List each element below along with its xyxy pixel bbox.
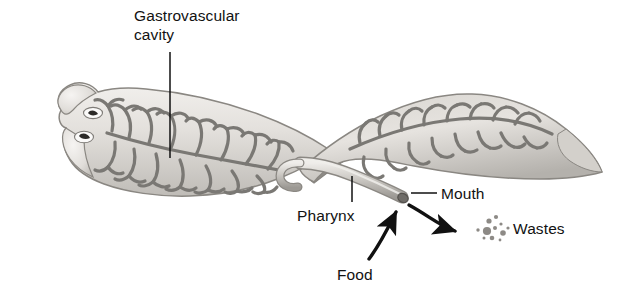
eyespot-upper [84, 107, 103, 118]
label-gastrovascular-cavity-line2: cavity [134, 26, 174, 43]
waste-particles [476, 215, 509, 242]
arrow-food [369, 212, 396, 259]
anterior-body [58, 83, 330, 196]
label-mouth: Mouth [441, 184, 485, 203]
planarian-diagram [0, 0, 633, 299]
arrow-wastes [409, 205, 455, 231]
label-wastes: Wastes [513, 219, 565, 238]
label-pharynx: Pharynx [297, 206, 355, 225]
label-gastrovascular-cavity-line1: Gastrovascular [134, 7, 240, 24]
label-food: Food [337, 265, 373, 284]
label-gastrovascular-cavity: Gastrovascularcavity [134, 6, 240, 44]
eyespot-lower [75, 131, 94, 143]
